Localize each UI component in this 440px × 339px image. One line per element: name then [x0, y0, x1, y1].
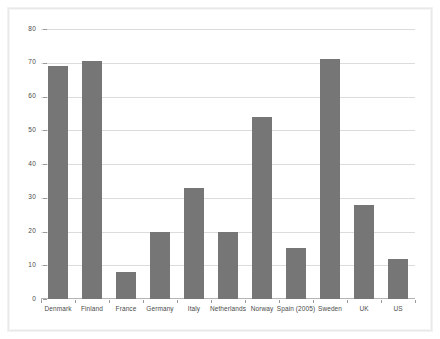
- x-tick-label-france: France: [116, 305, 137, 312]
- y-tick-mark-0: [43, 299, 47, 300]
- bar-italy: [184, 188, 204, 299]
- bar-germany: [150, 232, 170, 300]
- x-tick-mark-0: [41, 300, 42, 303]
- y-tick-mark-50: [43, 130, 47, 131]
- x-tick-mark-9: [347, 300, 348, 303]
- bar-finland: [82, 61, 102, 299]
- x-tick-label-netherlands: Netherlands: [210, 305, 246, 312]
- y-tick-label-70: 70: [10, 59, 36, 66]
- x-tick-label-denmark: Denmark: [44, 305, 71, 312]
- bar-us: [388, 259, 408, 300]
- x-tick-label-sweden: Sweden: [318, 305, 342, 312]
- bar-france: [116, 272, 136, 299]
- bar-netherlands: [218, 232, 238, 300]
- x-tick-label-uk: UK: [359, 305, 368, 312]
- y-tick-mark-10: [43, 265, 47, 266]
- x-tick-mark-4: [177, 300, 178, 303]
- y-tick-label-0: 0: [10, 296, 36, 303]
- y-tick-label-50: 50: [10, 127, 36, 134]
- y-tick-label-20: 20: [10, 228, 36, 235]
- x-tick-label-norway: Norway: [251, 305, 274, 312]
- y-tick-mark-60: [43, 97, 47, 98]
- x-tick-mark-5: [211, 300, 212, 303]
- bar-uk: [354, 205, 374, 300]
- x-tick-mark-10: [381, 300, 382, 303]
- bar-sweden: [320, 59, 340, 299]
- y-tick-mark-70: [43, 63, 47, 64]
- y-tick-mark-30: [43, 198, 47, 199]
- plot-area: [41, 29, 415, 299]
- x-tick-mark-2: [109, 300, 110, 303]
- x-tick-mark-11: [415, 300, 416, 303]
- y-tick-label-40: 40: [10, 161, 36, 168]
- x-tick-mark-1: [75, 300, 76, 303]
- chart-figure: 01020304050607080 DenmarkFinlandFranceGe…: [0, 0, 440, 339]
- x-tick-mark-7: [279, 300, 280, 303]
- bar-spain-2005: [286, 248, 306, 299]
- x-tick-mark-6: [245, 300, 246, 303]
- x-tick-label-us: US: [393, 305, 402, 312]
- x-tick-mark-8: [313, 300, 314, 303]
- gridline-80: [41, 29, 415, 30]
- x-tick-label-italy: Italy: [188, 305, 200, 312]
- x-tick-label-spain-2005: Spain (2005): [277, 305, 315, 312]
- bar-norway: [252, 117, 272, 299]
- y-tick-mark-20: [43, 232, 47, 233]
- x-tick-label-germany: Germany: [146, 305, 173, 312]
- y-tick-label-10: 10: [10, 262, 36, 269]
- y-tick-label-60: 60: [10, 93, 36, 100]
- bar-denmark: [48, 66, 68, 299]
- y-tick-mark-80: [43, 29, 47, 30]
- y-tick-label-80: 80: [10, 26, 36, 33]
- x-tick-label-finland: Finland: [81, 305, 103, 312]
- x-tick-mark-3: [143, 300, 144, 303]
- y-tick-label-30: 30: [10, 194, 36, 201]
- y-axis-ticks: 01020304050607080: [6, 0, 36, 339]
- y-tick-mark-40: [43, 164, 47, 165]
